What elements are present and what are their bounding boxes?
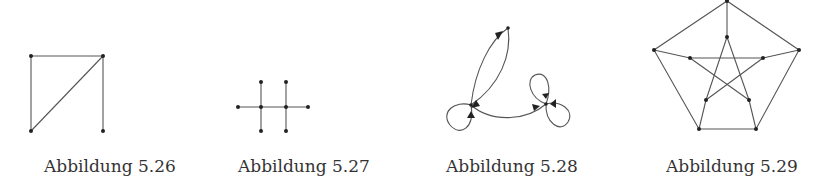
figure-5-28-graph	[447, 26, 570, 130]
caption-figure-5-29: Abbildung 5.29	[666, 156, 798, 176]
figure-5-26-graph	[29, 54, 105, 133]
caption-figure-5-27: Abbildung 5.27	[238, 156, 370, 176]
figure-5-27-graph	[236, 80, 310, 133]
caption-figure-5-28: Abbildung 5.28	[446, 156, 578, 176]
figure-5-29-graph	[652, 0, 801, 131]
caption-figure-5-26: Abbildung 5.26	[44, 156, 176, 176]
